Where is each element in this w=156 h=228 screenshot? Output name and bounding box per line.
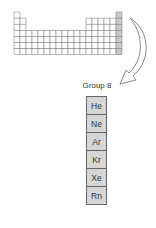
element-cell-he: He [86,96,107,115]
element-cell-kr: Kr [86,150,107,169]
element-cell-xe: Xe [86,168,107,187]
element-cell-rn: Rn [86,186,107,205]
curved-arrow-icon [120,18,146,84]
noble-gas-stack: He Ne Ar Kr Xe Rn [86,96,107,205]
element-cell-ne: Ne [86,114,107,133]
group-label: Group 8 [78,81,116,90]
periodic-table-grid [14,12,122,55]
element-cell-ar: Ar [86,132,107,151]
